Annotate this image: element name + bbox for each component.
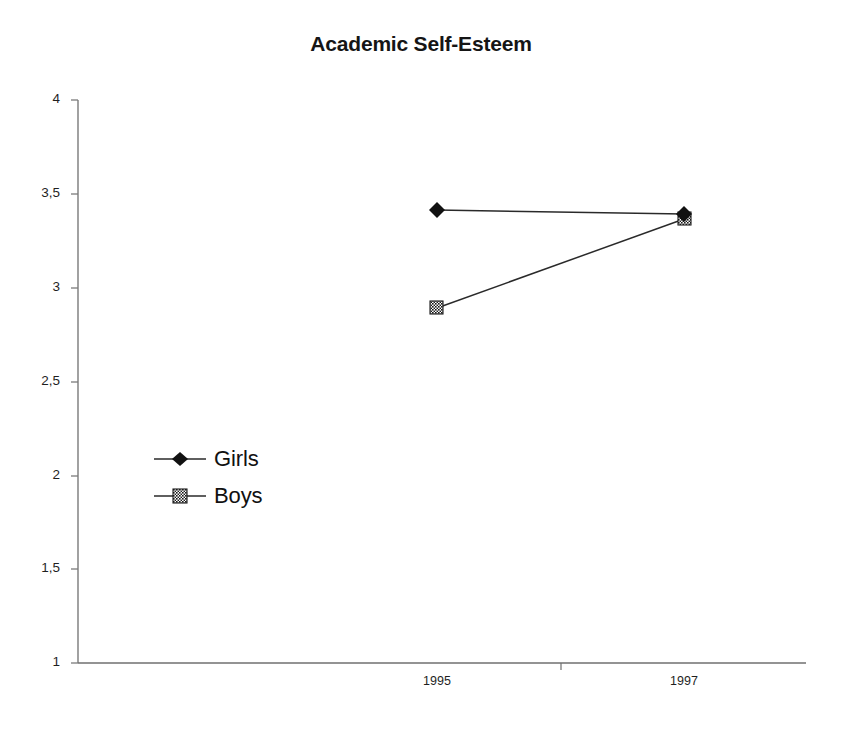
data-point-boys-1995 [430,301,443,314]
y-tick-label-2: 2 [8,467,60,482]
plot-area [0,0,842,733]
legend-item-girls: Girls [152,440,263,477]
y-tick-marks [71,100,78,663]
y-tick-label-3-5: 3,5 [8,185,60,200]
x-tick-label-1995: 1995 [397,674,477,688]
diamond-marker-icon [152,449,208,469]
x-tick-label-1997: 1997 [644,674,724,688]
y-tick-label-1-5: 1,5 [8,560,60,575]
data-point-girls-1995 [429,202,445,218]
y-tick-label-2-5: 2,5 [8,373,60,388]
legend-item-boys: Boys [152,477,263,514]
chart-container: Academic Self-Esteem [0,0,842,733]
y-tick-label-3: 3 [8,279,60,294]
legend-label-girls: Girls [214,446,259,472]
legend-label-boys: Boys [214,483,263,509]
square-marker-icon [152,486,208,506]
series-line-girls [437,210,684,214]
chart-legend: Girls Boys [152,440,263,514]
y-tick-label-1: 1 [8,654,60,669]
series-line-boys [437,219,684,308]
y-tick-label-4: 4 [8,91,60,106]
